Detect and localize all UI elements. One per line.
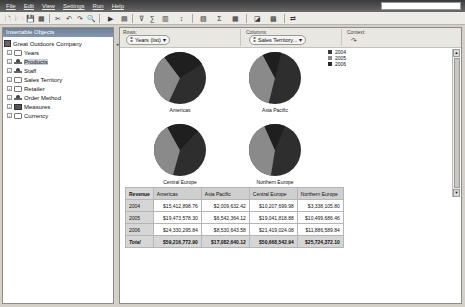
scroll-up-icon[interactable]: ▲ — [453, 49, 460, 57]
object-tree: Great Outdoors Company + Years + Product… — [3, 37, 113, 122]
chart-icon[interactable]: ▨ — [197, 14, 210, 22]
scroll-thumb[interactable] — [454, 58, 460, 188]
save-as-icon[interactable]: ▦ — [37, 14, 45, 22]
row-header[interactable]: 2006 — [126, 224, 154, 236]
columns-drop-zone[interactable]: Columns: ⁑ Sales Territory... ▾ — [246, 29, 336, 47]
corner-cell[interactable]: Revenue — [126, 188, 154, 200]
total-label[interactable]: Total — [126, 236, 154, 248]
pie-chart-asia-pacific[interactable] — [247, 50, 303, 106]
menu-file[interactable]: File — [6, 3, 16, 9]
column-header[interactable]: Northern Europe — [297, 188, 343, 200]
open-icon[interactable]: 🗁 — [15, 14, 23, 22]
toolbar-separator — [99, 14, 100, 23]
report-area: Rows: ⁑ Years (list) ▾ Columns: ⁑ Sales … — [119, 27, 462, 304]
legend-swatch — [328, 50, 332, 54]
expand-icon[interactable]: + — [7, 86, 12, 91]
total-cell: $17,082,640.12 — [201, 236, 249, 248]
drop-zone-bar: Rows: ⁑ Years (list) ▾ Columns: ⁑ Sales … — [120, 28, 461, 48]
sort-icon[interactable]: ↕ — [175, 14, 188, 22]
expand-icon[interactable]: + — [7, 68, 12, 73]
column-header[interactable]: Asia Pacific — [201, 188, 249, 200]
column-header[interactable]: Central Europe — [249, 188, 297, 200]
calculation-icon[interactable]: Σ — [213, 14, 226, 22]
expand-icon[interactable]: + — [7, 104, 12, 109]
tree-item-sales-territory[interactable]: + Sales Territory — [4, 75, 112, 84]
rows-drop-zone[interactable]: Rows: ⁑ Years (list) ▾ — [123, 29, 235, 47]
folder-icon — [14, 77, 22, 83]
undo-icon[interactable]: ↶ — [65, 14, 73, 22]
pie-americas[interactable]: Americas — [152, 50, 208, 113]
tree-item-currency[interactable]: + Currency — [4, 111, 112, 120]
toolbar-separator — [49, 14, 50, 23]
export-icon[interactable]: ▤ — [120, 14, 128, 22]
table-row: 2006 $24,330,295.84 $8,530,643.58 $21,41… — [126, 224, 344, 236]
run-icon[interactable]: ▶ — [104, 14, 117, 22]
context-drop-zone[interactable]: Context: ↷ — [347, 29, 457, 47]
legend-swatch — [328, 62, 332, 66]
insertable-objects-panel: Insertable Objects Great Outdoors Compan… — [2, 27, 114, 304]
dropdown-arrow-icon[interactable]: ▾ — [163, 37, 166, 43]
find-icon[interactable]: 🔍 — [87, 14, 95, 22]
menu-view[interactable]: View — [42, 3, 55, 9]
tree-item-staff[interactable]: + Staff — [4, 66, 112, 75]
explore-icon[interactable]: ◪ — [251, 14, 264, 22]
cut-icon[interactable]: ✂ — [54, 14, 62, 22]
menu-help[interactable]: Help — [112, 3, 124, 9]
expand-icon[interactable]: + — [7, 95, 12, 100]
tree-item-label: Retailer — [24, 86, 45, 92]
save-icon[interactable]: 💾 — [26, 14, 34, 22]
cube-icon — [4, 40, 11, 47]
swap-icon[interactable]: ▩ — [267, 14, 280, 22]
toolbar-separator — [284, 14, 285, 23]
properties-icon[interactable]: ⇄ — [289, 14, 297, 22]
new-icon[interactable]: 🗋 — [4, 14, 12, 22]
pie-northern-europe[interactable]: Northern Europe — [247, 122, 303, 185]
expand-icon[interactable]: + — [7, 59, 12, 64]
table-cell: $21,419,024.08 — [249, 224, 297, 236]
pie-chart-americas[interactable] — [152, 50, 208, 106]
menu-run[interactable]: Run — [93, 3, 104, 9]
pie-chart-northern-europe[interactable] — [247, 122, 303, 178]
tree-item-label: Measures — [24, 104, 50, 110]
layout-icon[interactable]: ▦ — [229, 14, 242, 22]
redo-icon[interactable]: ↷ — [76, 14, 84, 22]
pie-label: Northern Europe — [247, 179, 303, 185]
toolbar: 🗋 🗁 💾 ▦ ✂ ↶ ↷ 🔍 ▶ ▤ ⊽ ∑ ▥ ↕ ▨ Σ ▦ ◪ ▩ ⇄ — [0, 12, 465, 25]
tree-item-label: Currency — [24, 113, 48, 119]
row-header[interactable]: 2004 — [126, 200, 154, 212]
tree-item-label: Years — [24, 50, 39, 56]
tree-item-measures[interactable]: + Measures — [4, 102, 112, 111]
expand-icon[interactable]: + — [7, 50, 12, 55]
menu-settings[interactable]: Settings — [63, 3, 85, 9]
legend-swatch — [328, 56, 332, 60]
pie-asia-pacific[interactable]: Asia Pacific — [247, 50, 303, 113]
table-cell: $11,886,589.84 — [297, 224, 343, 236]
rank-icon[interactable]: ▥ — [159, 14, 172, 22]
table-cell: $2,009,632.42 — [201, 200, 249, 212]
pie-label: Asia Pacific — [247, 107, 303, 113]
scroll-down-icon[interactable]: ▼ — [453, 189, 460, 197]
expand-icon[interactable]: + — [7, 113, 12, 118]
rows-pill[interactable]: ⁑ Years (list) ▾ — [126, 35, 170, 45]
tree-root[interactable]: Great Outdoors Company — [4, 39, 112, 48]
toolbar-separator — [246, 14, 247, 23]
total-cell: $25,724,372.10 — [297, 236, 343, 248]
divider — [341, 29, 342, 46]
tree-item-years[interactable]: + Years — [4, 48, 112, 57]
dropdown-arrow-icon[interactable]: ▾ — [299, 37, 302, 43]
menu-edit[interactable]: Edit — [24, 3, 34, 9]
columns-pill[interactable]: ⁑ Sales Territory... ▾ — [249, 35, 306, 45]
menu-bar: File Edit View Settings Run Help — [0, 0, 465, 12]
pie-chart-central-europe[interactable] — [152, 122, 208, 178]
pie-central-europe[interactable]: Central Europe — [152, 122, 208, 185]
row-header[interactable]: 2005 — [126, 212, 154, 224]
tree-item-order-method[interactable]: + Order Method — [4, 93, 112, 102]
sum-icon[interactable]: ∑ — [148, 14, 156, 22]
expand-icon[interactable]: + — [7, 77, 12, 82]
vertical-scrollbar[interactable]: ▲ ▼ — [452, 49, 460, 197]
tree-item-retailer[interactable]: + Retailer — [4, 84, 112, 93]
column-header[interactable]: Americas — [153, 188, 201, 200]
tree-item-products[interactable]: + Products — [4, 57, 112, 66]
legend-item-2006: 2006 — [328, 61, 346, 67]
filter-icon[interactable]: ⊽ — [137, 14, 145, 22]
